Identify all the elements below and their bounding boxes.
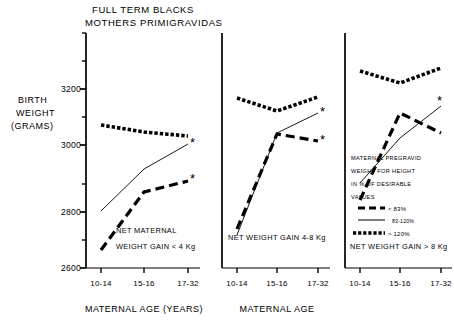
- y-tick-label-3200: 3200: [61, 84, 81, 94]
- panel-2-x-tick-label-2: 15-16: [266, 279, 288, 288]
- legend: MATERNAL PREGRAVID WEIGHT FOR HEIGHT IN …: [351, 155, 421, 237]
- legend-label-83to120: 83-120%: [392, 218, 414, 224]
- panel-1-x-tick-label-3: 17-32: [177, 279, 199, 288]
- panel-2-series-83to120-line: [237, 113, 318, 235]
- panel-3-caption-line-2: NET WEIGHT GAIN > 8 Kg: [350, 242, 448, 251]
- panel-3-x-tick-label-1: 10-14: [349, 279, 371, 288]
- panel-2-x-tick-label-1: 10-14: [226, 279, 248, 288]
- panel-3-series-gt120-line: [360, 68, 441, 83]
- panel-2-asterisk-lt83: *: [320, 132, 325, 147]
- y-axis-label-line-1: BIRTH: [18, 95, 47, 105]
- chart-title-line-2: MOTHERS PRIMIGRAVIDAS: [85, 17, 223, 28]
- y-tick-label-3000: 3000: [61, 140, 81, 150]
- panel-2-x-tick-label-3: 17-32: [307, 279, 329, 288]
- panel-2-asterisk-83to120: *: [320, 104, 325, 119]
- panel-1-caption-line-2: WEIGHT GAIN < 4 Kg: [116, 242, 195, 251]
- panel-3-x-tick-label-3: 17-32: [430, 279, 452, 288]
- panel-3-x-tick-label-2: 15-16: [389, 279, 411, 288]
- panel-2-caption-line-2: NET WEIGHT GAIN 4-8 Kg: [228, 233, 326, 242]
- panel-1-series-lt83-line: [101, 181, 188, 250]
- panel-1-series-83to120-line: [101, 144, 188, 211]
- panel-1-series-gt120-line: [101, 125, 188, 136]
- panel-3-asterisk-83to120: *: [437, 93, 442, 108]
- chart-svg: FULL TERM BLACKS MOTHERS PRIMIGRAVIDAS B…: [0, 0, 454, 324]
- panel-1: * * NET MATERNAL WEIGHT GAIN < 4 Kg 10-1…: [80, 33, 203, 314]
- panel-3: * MATERNAL PREGRAVID WEIGHT FOR HEIGHT I…: [345, 33, 452, 288]
- y-tick-label-2600: 2600: [61, 263, 81, 273]
- panel-1-asterisk-83to120: *: [190, 135, 195, 150]
- panel-2-x-axis-title: MATERNAL AGE: [239, 304, 314, 314]
- y-tick-label-2800: 2800: [61, 207, 81, 217]
- panel-1-x-axis-title: MATERNAL AGE (YEARS): [85, 304, 203, 314]
- legend-header-line-4: VALUES: [351, 194, 375, 200]
- panel-2-series-lt83-line: [237, 134, 318, 229]
- panel-2-series-gt120-line: [237, 97, 318, 111]
- y-axis-label-line-2: WEIGHT: [16, 108, 55, 118]
- panel-1-asterisk-lt83: *: [190, 171, 195, 186]
- legend-header-line-1: MATERNAL PREGRAVID: [351, 155, 421, 161]
- panel-1-caption-line-1: NET MATERNAL: [116, 226, 177, 235]
- panel-2: * * NET WEIGHT GAIN 4-8 Kg 10-14 15-16 1…: [222, 33, 330, 314]
- legend-header-line-2: WEIGHT FOR HEIGHT: [351, 168, 416, 174]
- chart-figure: FULL TERM BLACKS MOTHERS PRIMIGRAVIDAS B…: [0, 0, 454, 324]
- legend-label-gt120: > 120%: [388, 231, 410, 237]
- y-axis-label-line-3: (GRAMS): [11, 121, 54, 131]
- panel-1-x-tick-label-2: 15-16: [133, 279, 155, 288]
- legend-label-lt83: < 83%: [388, 206, 407, 212]
- legend-header-line-3: IN % OF DESIRABLE: [351, 181, 411, 187]
- panel-1-x-tick-label-1: 10-14: [90, 279, 112, 288]
- chart-title-line-1: FULL TERM BLACKS: [92, 4, 194, 15]
